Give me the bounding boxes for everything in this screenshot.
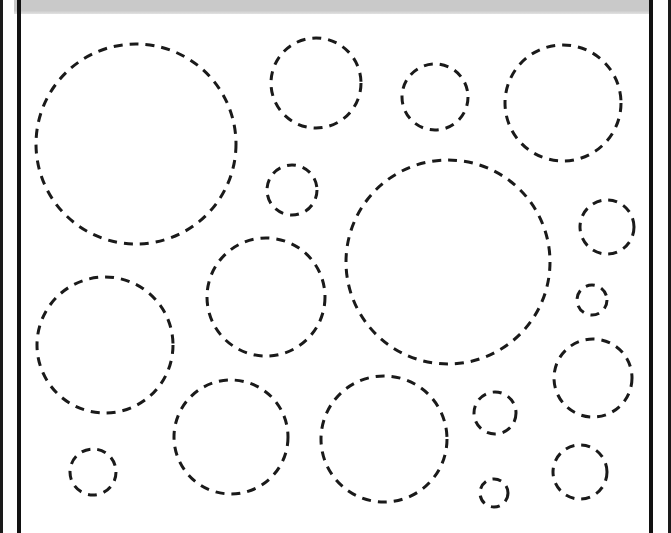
dashed-circle xyxy=(267,165,317,215)
dashed-circle xyxy=(480,479,508,507)
dashed-circle xyxy=(474,392,516,434)
dashed-circle xyxy=(580,200,634,254)
dashed-circle xyxy=(577,285,607,315)
dashed-circle xyxy=(207,238,325,356)
dashed-circle xyxy=(346,160,550,364)
dashed-circle xyxy=(271,38,361,128)
dashed-circle xyxy=(554,339,632,417)
dashed-circle xyxy=(321,376,447,502)
dashed-circle xyxy=(37,277,173,413)
dashed-circle xyxy=(174,380,288,494)
dashed-circles-worksheet xyxy=(0,0,671,533)
dashed-circle xyxy=(553,445,607,499)
dashed-circle xyxy=(505,45,621,161)
dashed-circle xyxy=(36,44,236,244)
dashed-circle xyxy=(402,64,468,130)
dashed-circle xyxy=(70,449,116,495)
